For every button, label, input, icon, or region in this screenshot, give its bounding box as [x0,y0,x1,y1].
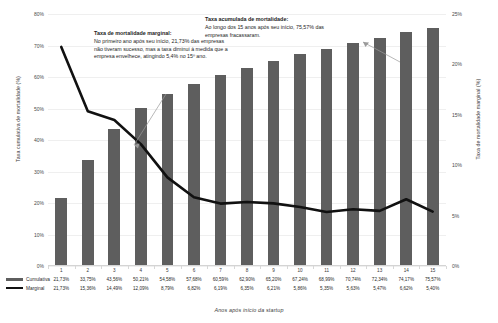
table-cell-cumulativa: 67,24% [287,275,314,284]
x-axis-tick [75,266,76,269]
table-cell-marginal: 5,86% [287,284,314,293]
table-cell-cumulativa: 65,20% [260,275,287,284]
table-cell-category: 10 [287,266,314,275]
table-cell-marginal: 6,19% [207,284,234,293]
x-axis-tick [419,266,420,269]
table-cell-category: 2 [75,266,102,275]
x-axis-tick [366,266,367,269]
chart-figure: Taxa cumulativa de mortalidade (%) Taxa … [0,0,498,323]
table-cell-category: 4 [128,266,155,275]
table-cell-marginal: 6,62% [393,284,420,293]
table-cell-category: 7 [207,266,234,275]
table-cell-category: 11 [313,266,340,275]
table-cell-category: 13 [366,266,393,275]
table-cell-category: 15 [419,266,446,275]
table-cell-cumulativa: 60,59% [207,275,234,284]
y-axis-left-tick: 40% [18,137,44,143]
table-cell-cumulativa: 70,74% [340,275,367,284]
x-axis-tick [101,266,102,269]
table-cell-category: 8 [234,266,261,275]
y-axis-right-tick: 15% [452,112,478,118]
x-axis-title: Anos após início da startup [0,307,498,313]
x-axis-tick [207,266,208,269]
table-cell-cumulativa: 57,68% [181,275,208,284]
y-axis-left-tick: 10% [18,232,44,238]
y-axis-right-tick: 20% [452,61,478,67]
table-cell-cumulativa: 33,75% [75,275,102,284]
annotation-cumulative-body: Ao longo dos 15 anos após seu início, 75… [205,24,324,38]
x-axis-tick [181,266,182,269]
y-axis-right-tick: 25% [452,11,478,17]
annotation-marginal-body: No primeiro ano após seu início, 21,73% … [94,38,228,59]
table-cell-category: 5 [154,266,181,275]
table-cell-marginal: 21,73% [48,284,75,293]
data-table: 123456789101112131415 Cumulativa 21,73%3… [0,266,498,293]
table-cell-cumulativa: 72,34% [366,275,393,284]
table-cell-marginal: 5,63% [340,284,367,293]
table-cell-category: 1 [48,266,75,275]
table-row-marginal: Marginal 21,73%15,36%14,49%12,09%8,79%6,… [0,284,498,293]
table-cell-cumulativa: 21,73% [48,275,75,284]
table-cell-category: 6 [181,266,208,275]
table-cell-marginal: 6,21% [260,284,287,293]
annotation-cumulative-heading: Taxa acumulada de mortalidade: [205,16,345,24]
y-axis-left-tick: 70% [18,43,44,49]
table-cell-cumulativa: 68,99% [313,275,340,284]
y-axis-right-tick: 10% [452,162,478,168]
table-cell-cumulativa: 43,56% [101,275,128,284]
table-row-cumulativa: Cumulativa 21,73%33,75%43,56%50,21%54,58… [0,275,498,284]
table-cell-category: 3 [101,266,128,275]
legend-swatch-marginal [6,287,23,289]
table-cell-marginal: 14,49% [101,284,128,293]
x-axis-tick [446,266,447,269]
table-cell-marginal: 15,36% [75,284,102,293]
x-axis-tick [313,266,314,269]
annotation-cumulative: Taxa acumulada de mortalidade: Ao longo … [205,16,345,39]
table-cell-marginal: 6,35% [234,284,261,293]
table-cell-marginal: 6,82% [181,284,208,293]
table-cell-cumulativa: 50,21% [128,275,155,284]
table-row-categories: 123456789101112131415 [0,266,498,275]
table-cell-marginal: 5,47% [366,284,393,293]
y-axis-left-tick: 80% [18,11,44,17]
x-axis-tick [287,266,288,269]
y-axis-left-tick: 50% [18,106,44,112]
table-cell-marginal: 12,09% [128,284,155,293]
y-axis-right-tick: 5% [452,213,478,219]
y-axis-left-tick: 60% [18,74,44,80]
x-axis-tick [340,266,341,269]
x-axis-tick [154,266,155,269]
x-axis-tick [48,266,49,269]
x-axis-tick [260,266,261,269]
table-cell-cumulativa: 74,17% [393,275,420,284]
table-cell-cumulativa: 54,58% [154,275,181,284]
table-cell-marginal: 5,35% [313,284,340,293]
x-axis-tick [128,266,129,269]
table-cell-marginal: 5,40% [419,284,446,293]
y-axis-left-tick: 30% [18,169,44,175]
table-cell-category: 9 [260,266,287,275]
x-axis-tick [234,266,235,269]
legend-swatch-cumulativa [6,278,23,281]
table-cell-cumulativa: 75,57% [419,275,446,284]
table-cell-cumulativa: 62,90% [234,275,261,284]
x-axis-tick [393,266,394,269]
table-cell-category: 12 [340,266,367,275]
table-cell-category: 14 [393,266,420,275]
y-axis-left-tick: 20% [18,200,44,206]
table-cell-marginal: 8,79% [154,284,181,293]
